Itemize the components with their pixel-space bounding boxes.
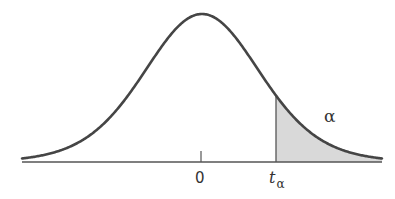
tail-area-alpha-label: α [324, 108, 335, 125]
critical-value-t: t [269, 168, 275, 187]
critical-value-label: tα [269, 170, 284, 186]
center-zero-label: 0 [195, 171, 205, 186]
density-curve [22, 14, 382, 158]
critical-value-subscript-alpha: α [276, 177, 284, 191]
